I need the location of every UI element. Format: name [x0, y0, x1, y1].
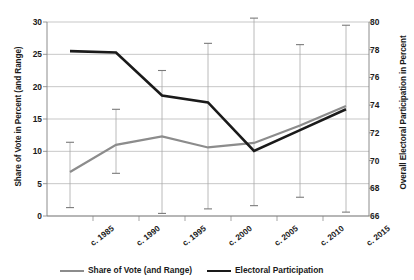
- legend-label-0: Share of Vote (and Range): [88, 265, 192, 275]
- legend-swatch-0: [60, 270, 84, 272]
- plot-area: [0, 0, 414, 280]
- legend-label-1: Electoral Participation: [235, 265, 323, 275]
- range-bar: [250, 18, 258, 206]
- range-bar: [296, 45, 304, 198]
- range-bar: [204, 43, 212, 209]
- legend-swatch-1: [207, 270, 231, 272]
- range-bar: [66, 142, 74, 207]
- chart-container: Share of Vote in Percent (and Range) Ove…: [0, 0, 414, 280]
